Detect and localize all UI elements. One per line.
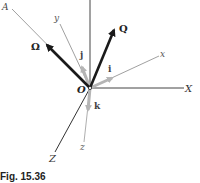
label-Q: Q xyxy=(119,23,128,34)
label-k: k xyxy=(94,101,101,111)
omega-vector xyxy=(47,45,90,88)
label-i: i xyxy=(108,64,112,74)
label-j: j xyxy=(79,50,83,60)
figure-caption: Fig. 15.36 xyxy=(0,171,46,182)
label-A: A xyxy=(1,2,9,12)
label-z: z xyxy=(79,142,85,152)
origin-point xyxy=(88,86,91,89)
label-O: O xyxy=(77,84,86,95)
label-X: X xyxy=(184,83,193,94)
label-y: y xyxy=(53,13,60,23)
label-x: x xyxy=(160,49,165,59)
k-unit-vector xyxy=(88,88,90,110)
label-omega: Ω xyxy=(31,41,40,52)
Z-axis-line xyxy=(55,88,90,152)
label-Z: Z xyxy=(48,153,57,164)
diagram-canvas: A y Ω j Q i x O X k z Z Fig. 15.36 xyxy=(0,0,200,183)
